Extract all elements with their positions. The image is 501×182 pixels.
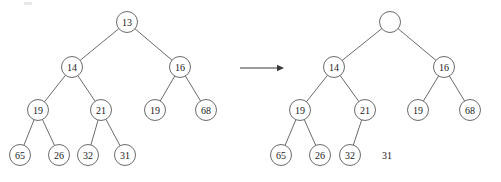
tree-node: 65	[271, 145, 292, 166]
tree-node: 19	[28, 100, 49, 121]
tree-node-label: 68	[465, 105, 475, 116]
tree-node-label: 19	[33, 105, 43, 116]
tree-node-label: 16	[439, 62, 449, 73]
detached-node-label: 31	[382, 150, 392, 161]
tree-node: 68	[196, 100, 217, 121]
tree-node: 26	[310, 145, 331, 166]
tree-node-label: 16	[175, 62, 185, 73]
tree-node: 65	[10, 145, 31, 166]
scan-artifact-speck	[24, 2, 32, 5]
tree-node-label: 26	[54, 150, 64, 161]
tree-node: 31	[115, 145, 136, 166]
tree-node-label: 32	[345, 150, 355, 161]
tree-node-label: 19	[295, 105, 305, 116]
tree-node: 26	[49, 145, 70, 166]
tree-node: 19	[290, 100, 311, 121]
tree-node-empty	[380, 12, 401, 33]
tree-node: 19	[145, 100, 166, 121]
tree-node-label: 21	[360, 105, 370, 116]
tree-node-circle	[380, 12, 401, 33]
tree-node-label: 31	[382, 150, 392, 161]
tree-node-label: 31	[120, 150, 130, 161]
tree-node: 13	[117, 12, 138, 33]
tree-node: 21	[91, 100, 112, 121]
tree-node-label: 32	[83, 150, 93, 161]
tree-node-label: 14	[67, 62, 77, 73]
tree-node: 14	[324, 57, 345, 78]
tree-node-label: 65	[276, 150, 286, 161]
diagram-background	[0, 0, 501, 182]
tree-node-label: 13	[122, 17, 132, 28]
binary-tree-diagram: 1314161921196865263231 14161921196865263…	[0, 0, 501, 182]
tree-node-label: 26	[315, 150, 325, 161]
tree-node-label: 19	[413, 105, 423, 116]
tree-node-label: 14	[329, 62, 339, 73]
tree-node-label: 19	[150, 105, 160, 116]
tree-node: 16	[434, 57, 455, 78]
tree-node-label: 65	[15, 150, 25, 161]
tree-node: 19	[408, 100, 429, 121]
tree-node: 21	[355, 100, 376, 121]
tree-node: 32	[340, 145, 361, 166]
tree-node-label: 21	[96, 105, 106, 116]
tree-node: 68	[460, 100, 481, 121]
tree-node-label: 68	[201, 105, 211, 116]
tree-node: 14	[62, 57, 83, 78]
tree-node: 16	[170, 57, 191, 78]
tree-node: 32	[78, 145, 99, 166]
